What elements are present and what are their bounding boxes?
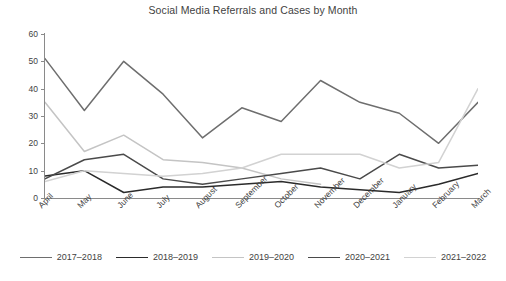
legend-item-label: 2019–2020 [249,252,294,262]
x-axis-tick-label: June [115,190,135,210]
x-axis-tick-label: October [272,182,300,210]
x-axis-tick-label: December [351,175,386,210]
legend-item-label: 2017–2018 [57,252,102,262]
x-axis-tick-label: March [469,186,493,210]
legend-item-label: 2020–2021 [345,252,390,262]
x-axis-tick-label: February [430,179,461,210]
x-axis-tick-label: September [233,174,269,210]
legend-item-label: 2021–2022 [441,252,486,262]
chart-legend: 2017–20182018–20192019–20202020–20212021… [0,252,506,262]
x-axis-tick-label: January [390,182,418,210]
x-axis-tick-label: April [36,191,55,210]
legend-item[interactable]: 2018–2019 [116,252,198,262]
chart-container: Social Media Referrals and Cases by Mont… [0,0,506,281]
legend-line-swatch [20,257,52,258]
legend-item-label: 2018–2019 [153,252,198,262]
legend-item[interactable]: 2021–2022 [404,252,486,262]
legend-item[interactable]: 2020–2021 [308,252,390,262]
legend-item[interactable]: 2019–2020 [212,252,294,262]
x-axis-tick-label: August [193,184,219,210]
legend-line-swatch [404,257,436,258]
legend-line-swatch [212,257,244,258]
legend-line-swatch [116,257,148,258]
x-axis-tick-label: July [154,192,172,210]
legend-item[interactable]: 2017–2018 [20,252,102,262]
x-axis-tick-label: November [312,175,347,210]
legend-line-swatch [308,257,340,258]
x-axis-tick-label: May [75,192,93,210]
x-axis-labels: AprilMayJuneJulyAugustSeptemberOctoberNo… [0,0,506,281]
